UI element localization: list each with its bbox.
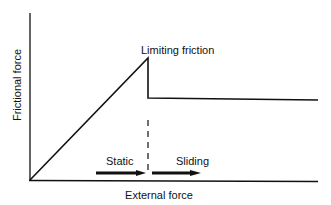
y-axis-label: Frictional force [11, 49, 23, 121]
static-label: Static [106, 155, 134, 167]
sliding-arrow-icon [152, 170, 201, 176]
friction-diagram: Frictional force External force Limiting… [0, 0, 331, 205]
x-axis [29, 181, 318, 182]
x-axis-label: External force [125, 189, 193, 201]
limiting-friction-label: Limiting friction [141, 44, 214, 56]
sliding-label: Sliding [176, 155, 209, 167]
friction-curve [30, 58, 318, 180]
static-arrow-icon [96, 170, 146, 176]
